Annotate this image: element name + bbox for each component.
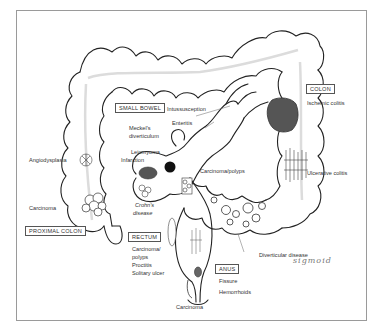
carcinoma-polyps-label: Carcinoma/polyps — [200, 168, 245, 175]
colon-illustration — [0, 0, 379, 332]
rectum-polyps — [168, 218, 176, 246]
hemorrhoids-label: Hemorrhoids — [219, 289, 251, 296]
anal-carcinoma-label: Carcinoma — [176, 304, 203, 311]
meckels-label-1: Meckel's — [129, 125, 151, 132]
enteritis-label: Enteritis — [172, 120, 192, 127]
fissure-label: Fissure — [219, 278, 237, 285]
crohns-label-2: disease — [133, 210, 152, 217]
handwritten-sigmoid-note: sigmoid — [293, 256, 332, 265]
rectum-region-label: RECTUM — [128, 232, 161, 242]
solitary-ulcer-lesion — [195, 267, 202, 277]
infarction-label: Infarction — [121, 157, 144, 164]
proximal-colon-region-label: PROXIMAL COLON — [25, 226, 86, 236]
leiomyoma-label: Leiomyoma — [131, 149, 160, 156]
proximal-carcinoma-lesion — [82, 193, 106, 216]
meckels-label-2: diverticulum — [129, 133, 159, 140]
proximal-carcinoma-label: Carcinoma — [29, 205, 56, 212]
anus-region-label: ANUS — [215, 264, 239, 274]
rectum — [175, 208, 196, 302]
ulcerative-colitis-texture — [284, 148, 308, 182]
proctitis-label: Proctitis — [132, 262, 152, 269]
transverse-colon — [80, 31, 324, 72]
intussusception-label: Intussusception — [167, 106, 206, 113]
meckels-diverticulum — [172, 130, 185, 146]
leiomyoma-lesion — [165, 162, 176, 173]
small-bowel-region-label: SMALL BOWEL — [115, 103, 165, 113]
diverticula — [211, 197, 266, 227]
small-bowel-polyps — [182, 178, 192, 194]
rectum-polyps-label: polyps — [132, 254, 148, 261]
colon-region-label: COLON — [306, 84, 335, 94]
crohns-label-1: Crohn's — [135, 202, 154, 209]
appendix — [104, 226, 122, 244]
ulcerative-colitis-label: Ulcerative colitis — [307, 170, 347, 177]
solitary-ulcer-label: Solitary ulcer — [132, 270, 164, 277]
infarction-lesion — [139, 167, 157, 179]
ischemic-colitis-lesion — [267, 98, 298, 132]
crohns-lesion — [139, 185, 151, 197]
proctitis-texture — [190, 228, 202, 254]
rectum-carcinoma-label: Carcinoma/ — [132, 246, 161, 253]
angiodysplasia-label: Angiodysplasia — [29, 157, 67, 164]
angiodysplasia-lesion — [80, 154, 92, 166]
hemorrhoids-lesion — [187, 280, 192, 298]
ischemic-colitis-label: Ischemic colitis — [307, 100, 345, 107]
